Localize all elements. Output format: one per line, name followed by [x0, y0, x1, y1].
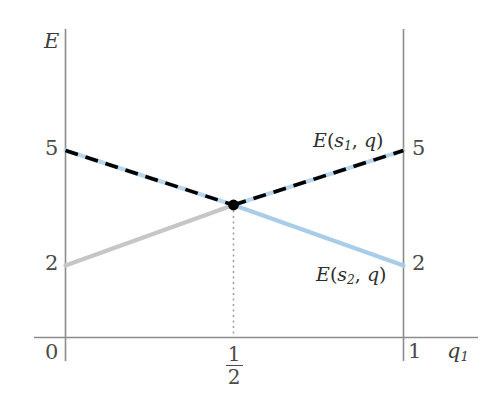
curve-label-s1-sub: 1 [344, 139, 352, 153]
y-axis-label: E [44, 31, 59, 52]
curve-label-s2-comma: , [355, 263, 367, 285]
y-tick-label-5-left: 5 [45, 138, 58, 159]
curve-label-s2-E: E [316, 263, 330, 285]
x-tick-label-1: 1 [408, 341, 421, 362]
curve-label-s1-comma: , [352, 129, 364, 151]
curve-label-s1-var: s [334, 129, 344, 151]
curve-s1-dash-right [234, 151, 404, 206]
curve-label-s1-E: E [313, 129, 327, 151]
curve-s2-left-segment [66, 205, 234, 266]
curve-s1-dash-left [66, 151, 234, 206]
curve-label-s2-close: ) [379, 263, 386, 285]
curve-label-s1-q: q [364, 129, 376, 151]
curve-s2-right-segment [234, 205, 404, 266]
x-axis-label: q1 [447, 341, 469, 363]
curve-label-s2-var: s [337, 263, 347, 285]
curve-label-s1: E(s1, q) [313, 131, 383, 153]
y-tick-label-2-left: 2 [45, 253, 58, 274]
fraction-numerator: 1 [222, 344, 246, 364]
curve-label-s2-sub: 2 [347, 273, 355, 287]
intersection-dot [228, 200, 239, 211]
x-tick-label-half: 1 2 [222, 344, 246, 388]
x-axis-label-main: q [447, 339, 460, 363]
curve-label-s2: E(s2, q) [316, 265, 386, 287]
fraction-denominator: 2 [222, 367, 246, 387]
chart-figure: E q1 0 1 1 2 5 5 2 2 E(s1, q) E(s2, q) [0, 0, 492, 402]
x-axis-label-subscript: 1 [460, 349, 468, 364]
y-tick-label-5-right: 5 [412, 138, 425, 159]
y-tick-label-2-right: 2 [412, 253, 425, 274]
x-tick-label-0: 0 [45, 342, 58, 363]
curve-label-s1-close: ) [376, 129, 383, 151]
curve-label-s2-q: q [367, 263, 379, 285]
